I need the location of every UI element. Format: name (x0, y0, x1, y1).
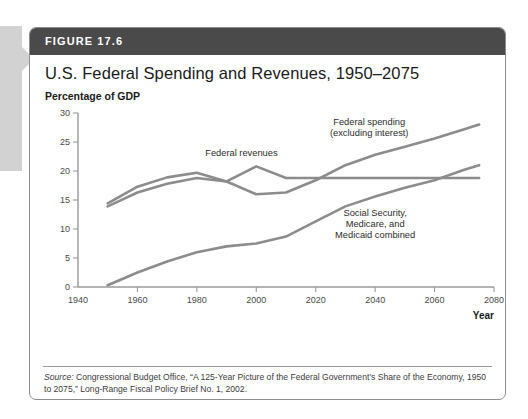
y-axis-tick-label: 5 (65, 253, 70, 263)
annotation-entitlements: Medicare, and (346, 219, 405, 229)
y-axis-unit-label: Percentage of GDP (45, 90, 140, 102)
y-axis-tick-label: 15 (60, 195, 70, 205)
x-axis-tick-label: 1980 (187, 295, 207, 305)
y-axis-tick-label: 20 (60, 166, 70, 176)
x-axis-tick-label: 2000 (246, 295, 266, 305)
x-axis-tick-label: 1940 (68, 295, 88, 305)
series-line-2 (108, 165, 479, 285)
line-chart-svg: 0510152025301940196019802000202020402060… (30, 103, 505, 328)
annotation-spending: Federal spending (333, 117, 405, 127)
source-divider (43, 366, 492, 367)
series-line-0 (108, 125, 479, 207)
figure-screenshot: FIGURE 17.6 U.S. Federal Spending and Re… (0, 0, 528, 419)
x-axis-tick-label: 2080 (484, 295, 504, 305)
annotation-entitlements: Medicaid combined (335, 230, 415, 240)
x-axis-tick-label: 1960 (127, 295, 147, 305)
figure-header-band: FIGURE 17.6 (30, 28, 505, 55)
y-axis-tick-label: 0 (65, 282, 70, 292)
x-axis-tick-label: 2040 (365, 295, 385, 305)
y-axis-tick-label: 30 (60, 108, 70, 118)
page-tab-marker (0, 26, 22, 171)
chart-plot-area: 0510152025301940196019802000202020402060… (30, 103, 505, 328)
x-axis-title: Year (473, 310, 494, 321)
source-label: Source: (44, 372, 74, 382)
annotation-spending: (excluding interest) (330, 128, 409, 138)
y-axis-tick-label: 10 (60, 224, 70, 234)
annotation-entitlements: Social Security, (343, 208, 406, 218)
source-citation-text: Congressional Budget Office, “A 125-Year… (44, 372, 486, 394)
y-axis-tick-label: 25 (60, 137, 70, 147)
x-axis-tick-label: 2020 (306, 295, 326, 305)
figure-number-label: FIGURE 17.6 (45, 35, 123, 47)
figure-container: FIGURE 17.6 U.S. Federal Spending and Re… (29, 27, 506, 400)
annotation-revenues: Federal revenues (205, 148, 278, 158)
figure-title: U.S. Federal Spending and Revenues, 1950… (45, 64, 419, 83)
x-axis-tick-label: 2060 (425, 295, 445, 305)
source-note: Source: Congressional Budget Office, “A … (44, 372, 494, 395)
